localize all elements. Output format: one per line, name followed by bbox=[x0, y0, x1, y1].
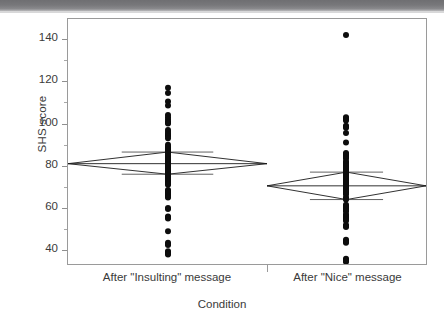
x-axis-label-insulting: After "Insulting" message bbox=[67, 271, 267, 283]
data-point bbox=[165, 121, 171, 127]
data-point bbox=[165, 251, 171, 257]
data-point bbox=[343, 224, 349, 230]
x-axis-title: Condition bbox=[0, 298, 444, 310]
data-point bbox=[343, 125, 349, 131]
y-axis-tick-label: 80 bbox=[24, 158, 58, 170]
data-point bbox=[343, 117, 349, 123]
data-point bbox=[165, 228, 171, 234]
data-point bbox=[165, 90, 171, 96]
data-point bbox=[165, 216, 171, 222]
data-point bbox=[343, 130, 349, 136]
data-point bbox=[165, 135, 171, 141]
plot-canvas bbox=[68, 19, 426, 264]
data-point bbox=[343, 197, 349, 203]
data-point bbox=[165, 85, 171, 91]
data-point bbox=[165, 103, 171, 109]
data-point bbox=[343, 140, 349, 146]
y-axis-tick-label: 100 bbox=[24, 116, 58, 128]
data-point bbox=[165, 242, 171, 248]
data-point bbox=[165, 182, 171, 188]
y-axis-tick-label: 60 bbox=[24, 200, 58, 212]
data-point bbox=[343, 240, 349, 246]
y-axis-tick-label: 40 bbox=[24, 242, 58, 254]
y-axis-tick-label: 140 bbox=[24, 31, 58, 43]
y-axis-tick-label: 120 bbox=[24, 73, 58, 85]
data-point bbox=[165, 194, 171, 200]
x-axis-label-nice: After "Nice" message bbox=[268, 271, 427, 283]
chart-figure: SHS score 406080100120140 After "Insulti… bbox=[0, 0, 444, 322]
data-point bbox=[343, 32, 349, 38]
data-point bbox=[165, 206, 171, 212]
plot-area bbox=[67, 18, 427, 265]
